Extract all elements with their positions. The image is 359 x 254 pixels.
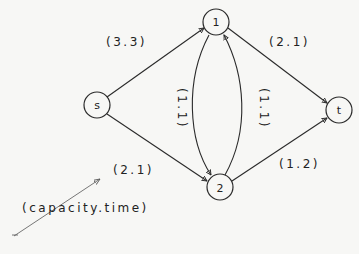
- edge-1-t-label: (2.1): [269, 35, 310, 49]
- node-t-label: t: [337, 104, 342, 117]
- edge-2-to-t: [232, 118, 327, 181]
- node-1: 1: [203, 9, 229, 35]
- edge-s-2-label: (2.1): [113, 163, 154, 177]
- edge-1-to-2: [192, 35, 211, 175]
- node-2-label: 2: [217, 182, 224, 195]
- edge-s-1-label: (3.3): [106, 35, 147, 49]
- edge-2-to-1: [224, 35, 242, 175]
- edge-1-2-label: (1.1): [175, 88, 189, 129]
- node-2: 2: [207, 174, 233, 200]
- legend-label: (capacity.time): [22, 201, 149, 215]
- edge-2-1-label: (1.1): [257, 88, 271, 129]
- node-t: t: [326, 97, 352, 123]
- edge-2-t-label: (1.2): [279, 157, 320, 171]
- node-s: s: [84, 92, 110, 118]
- flow-network-diagram: s 1 2 t (3.3) (2.1) (2.1) (1.2) (1.1) (1…: [0, 0, 359, 254]
- node-1-label: 1: [213, 16, 220, 29]
- node-s-label: s: [94, 99, 100, 112]
